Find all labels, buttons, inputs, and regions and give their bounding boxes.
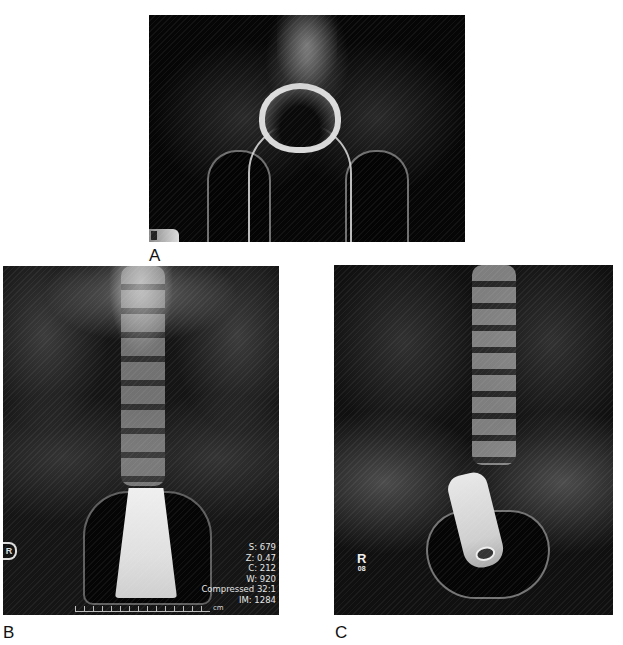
foreign-object-ring	[259, 83, 341, 153]
panel-label-c: C	[335, 624, 347, 641]
overlay-compression: Compressed 32:1	[201, 584, 276, 595]
overlay-w: W: 920	[201, 574, 276, 585]
overlay-z: Z: 0.47	[201, 553, 276, 564]
xray-panel-c: R 08	[334, 265, 613, 615]
side-marker-r: R 08	[357, 553, 366, 573]
panel-label-b: B	[3, 624, 14, 641]
dicom-overlay: S: 679 Z: 0.47 C: 212 W: 920 Compressed …	[201, 542, 276, 605]
scale-ruler	[75, 606, 210, 612]
xray-panel-a	[149, 15, 465, 242]
film-marker-tab	[149, 229, 179, 242]
side-marker-letter: R	[357, 551, 366, 566]
lumbar-spine	[472, 265, 516, 465]
side-marker-sub: 08	[357, 565, 366, 573]
right-pelvic-cavity	[345, 150, 409, 242]
overlay-c: C: 212	[201, 563, 276, 574]
panel-label-a: A	[149, 247, 160, 264]
ruler-unit: cm	[213, 604, 224, 612]
overlay-s: S: 679	[201, 542, 276, 553]
lumbar-spine	[277, 15, 337, 90]
lumbar-spine	[121, 266, 165, 486]
side-marker-r: R	[3, 542, 17, 560]
xray-panel-b: R S: 679 Z: 0.47 C: 212 W: 920 Compresse…	[3, 266, 279, 615]
